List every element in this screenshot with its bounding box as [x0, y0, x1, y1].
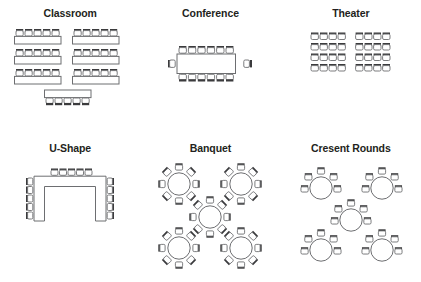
layout-card-conference: Conference [140, 0, 280, 135]
banquet-table-round [190, 196, 231, 237]
u-shape-top-seats [51, 169, 92, 176]
cresent-table-round [361, 167, 402, 199]
cresent-table-round [361, 229, 402, 261]
layout-diagram-cresent-rounds [298, 162, 404, 270]
u-shape-svg [25, 168, 115, 226]
classroom-table-group [15, 49, 62, 64]
classroom-table-group [73, 69, 120, 84]
banquet-table-round [159, 163, 200, 204]
seating-layouts-grid: Classroom [0, 0, 421, 282]
classroom-table-group [15, 29, 62, 44]
layout-card-cresent-rounds: Cresent Rounds [281, 135, 421, 282]
layout-title-banquet: Banquet [190, 142, 231, 154]
layout-card-banquet: Banquet [140, 135, 280, 282]
classroom-table-group [73, 49, 120, 64]
layout-title-cresent-rounds: Cresent Rounds [311, 142, 391, 154]
layout-title-theater: Theater [332, 7, 369, 19]
u-shape-right-seats [107, 178, 114, 219]
layout-title-classroom: Classroom [43, 7, 96, 19]
layout-diagram-classroom [12, 27, 128, 109]
classroom-table-rows [15, 29, 120, 105]
u-shape-left-seats [26, 178, 33, 219]
cresent-table-round [330, 199, 371, 231]
theater-seat-rows [311, 33, 390, 72]
cresent-table-round [300, 229, 341, 261]
layout-card-u-shape: U-Shape [0, 135, 140, 282]
conference-bottom-seats [179, 74, 233, 81]
conference-top-seats [179, 46, 233, 53]
theater-svg [310, 32, 392, 76]
layout-card-classroom: Classroom [0, 0, 140, 135]
classroom-table-group [15, 69, 62, 84]
u-shape-table [34, 176, 106, 221]
layout-diagram-conference [167, 45, 253, 87]
cresent-rounds-svg [298, 162, 404, 270]
layout-title-u-shape: U-Shape [49, 142, 91, 154]
conference-table [177, 54, 236, 74]
banquet-table-round [221, 163, 262, 204]
layout-title-conference: Conference [182, 7, 239, 19]
banquet-table-round [221, 227, 262, 268]
banquet-table-round [159, 227, 200, 268]
classroom-svg [12, 27, 128, 109]
layout-diagram-u-shape [25, 168, 115, 226]
banquet-svg [157, 162, 263, 270]
layout-card-theater: Theater [281, 0, 421, 135]
classroom-table-group [73, 29, 120, 44]
layout-diagram-banquet [157, 162, 263, 270]
conference-svg [167, 45, 253, 87]
layout-diagram-theater [310, 32, 392, 76]
cresent-table-round [300, 167, 341, 199]
classroom-front-table-group [45, 90, 92, 105]
